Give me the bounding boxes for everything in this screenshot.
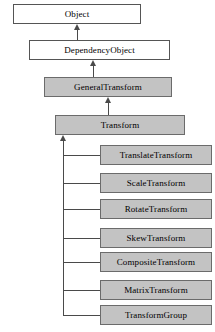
class-box-composite-transform[interactable]: CompositeTransform <box>100 252 212 272</box>
class-box-rotate-transform[interactable]: RotateTransform <box>100 199 212 219</box>
edge-branch-translate-transform <box>63 155 100 156</box>
edge-dependencyobject-to-object <box>77 30 78 40</box>
class-hierarchy-diagram: Object DependencyObject GeneralTransform… <box>0 0 215 332</box>
arrowhead-inheritance-generaltransform <box>105 97 111 103</box>
class-box-scale-transform[interactable]: ScaleTransform <box>100 173 212 193</box>
class-label: MatrixTransform <box>124 286 188 295</box>
class-box-object[interactable]: Object <box>13 4 141 24</box>
class-box-matrix-transform[interactable]: MatrixTransform <box>100 280 212 300</box>
class-label: SkewTransform <box>127 234 186 243</box>
edge-branch-transform-group <box>63 315 100 316</box>
edge-bus-transform-subclasses <box>63 141 64 315</box>
class-label: TranslateTransform <box>120 151 193 160</box>
class-label: GeneralTransform <box>74 83 142 92</box>
edge-branch-scale-transform <box>63 183 100 184</box>
arrowhead-inheritance-object <box>74 24 80 30</box>
class-box-translate-transform[interactable]: TranslateTransform <box>100 145 212 165</box>
edge-branch-matrix-transform <box>63 290 100 291</box>
class-label: TransformGroup <box>125 311 187 320</box>
edge-branch-rotate-transform <box>63 209 100 210</box>
class-box-general-transform[interactable]: GeneralTransform <box>44 77 172 97</box>
class-label: ScaleTransform <box>127 179 186 188</box>
edge-branch-composite-transform <box>63 262 100 263</box>
edge-branch-skew-transform <box>63 238 100 239</box>
class-label: CompositeTransform <box>117 258 195 267</box>
class-box-dependency-object[interactable]: DependencyObject <box>29 40 170 60</box>
arrowhead-inheritance-dependencyobject <box>90 60 96 66</box>
class-label: Object <box>65 10 90 19</box>
class-box-skew-transform[interactable]: SkewTransform <box>100 228 212 248</box>
edge-transform-to-generaltransform <box>108 103 109 115</box>
class-label: DependencyObject <box>64 46 135 55</box>
class-label: Transform <box>101 121 140 130</box>
class-box-transform[interactable]: Transform <box>55 115 185 135</box>
edge-generaltransform-to-dependencyobject <box>93 66 94 77</box>
class-label: RotateTransform <box>125 205 188 214</box>
class-box-transform-group[interactable]: TransformGroup <box>100 305 212 325</box>
